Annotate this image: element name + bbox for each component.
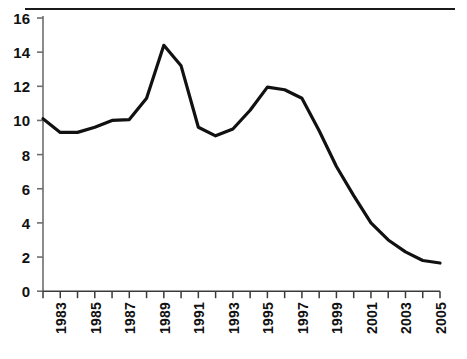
y-axis-ticks xyxy=(37,18,43,291)
line-plot-canvas xyxy=(0,0,467,359)
data-series-line xyxy=(43,45,440,263)
chart-figure: 0246810121416 19831985198719891991199319… xyxy=(0,0,467,359)
axis-lines xyxy=(43,16,440,292)
x-axis-ticks xyxy=(43,291,440,298)
